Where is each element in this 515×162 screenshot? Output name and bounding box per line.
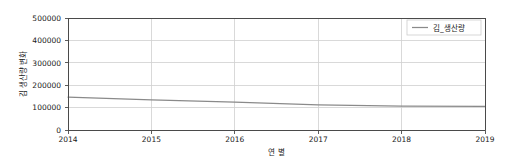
chart-canvas: 500000 400000 300000 200000 100000 0 201…	[0, 0, 515, 162]
y-axis-title: 김 생산량 변화	[18, 51, 28, 98]
y-tick-label: 500000	[32, 14, 61, 23]
line-chart-figure: 500000 400000 300000 200000 100000 0 201…	[0, 0, 515, 162]
legend: 김_생산량	[407, 20, 481, 35]
y-tick-label: 100000	[32, 103, 61, 112]
x-tick-label: 2014	[58, 135, 77, 144]
y-tick-label: 0	[56, 126, 61, 135]
y-tick-label: 400000	[32, 36, 61, 45]
y-tick-label: 200000	[32, 81, 61, 90]
x-tick-label: 2017	[309, 135, 328, 144]
x-axis-title: 연 별	[268, 147, 284, 157]
y-tick-label: 300000	[32, 59, 61, 68]
x-tick-label: 2016	[225, 135, 244, 144]
x-tick-label: 2018	[392, 135, 411, 144]
x-tick-label: 2015	[142, 135, 161, 144]
x-tick-label: 2019	[475, 135, 494, 144]
legend-label: 김_생산량	[433, 23, 465, 33]
